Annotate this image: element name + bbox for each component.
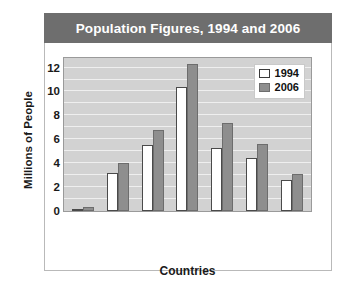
bar-2006 — [187, 64, 198, 211]
chart-title-bar: Population Figures, 1994 and 2006 — [44, 13, 332, 43]
population-bar-chart-figure: Population Figures, 1994 and 2006 024681… — [0, 0, 349, 301]
y-axis-tick-label: 0 — [54, 205, 60, 217]
bar-1994 — [142, 145, 153, 211]
bar-group — [211, 58, 233, 211]
bar-2006 — [83, 207, 94, 211]
chart-legend: 1994 2006 — [254, 64, 305, 99]
bar-1994 — [107, 173, 118, 211]
legend-label-1994: 1994 — [275, 67, 299, 81]
y-axis-tick-label: 12 — [47, 62, 60, 74]
y-axis-tick-label: 2 — [54, 181, 60, 193]
legend-swatch-2006-icon — [259, 83, 270, 92]
x-axis-labels — [63, 213, 312, 268]
y-axis-tick-label: 8 — [54, 109, 60, 121]
bar-2006 — [118, 163, 129, 211]
chart-title: Population Figures, 1994 and 2006 — [76, 21, 301, 36]
bar-1994 — [246, 158, 257, 211]
bar-2006 — [257, 144, 268, 211]
y-axis-tick-label: 6 — [54, 133, 60, 145]
bar-2006 — [292, 174, 303, 211]
x-axis-title: Countries — [63, 264, 312, 278]
legend-item-1994: 1994 — [259, 67, 299, 81]
legend-label-2006: 2006 — [275, 81, 299, 95]
bar-2006 — [222, 123, 233, 211]
legend-item-2006: 2006 — [259, 81, 299, 95]
y-axis-title: Millions of People — [22, 80, 34, 200]
bar-group — [72, 58, 94, 211]
bar-group — [107, 58, 129, 211]
bar-1994 — [281, 180, 292, 211]
bar-1994 — [211, 148, 222, 211]
legend-swatch-1994-icon — [259, 69, 270, 78]
bar-group — [176, 58, 198, 211]
bar-1994 — [176, 87, 187, 211]
bar-1994 — [72, 209, 83, 211]
plot-area: 1994 2006 — [63, 57, 312, 212]
y-axis-tick-label: 4 — [54, 157, 60, 169]
bar-group — [142, 58, 164, 211]
y-axis-ticks: 024681012 — [38, 57, 60, 212]
y-axis-tick-label: 10 — [47, 85, 60, 97]
bar-2006 — [153, 130, 164, 211]
